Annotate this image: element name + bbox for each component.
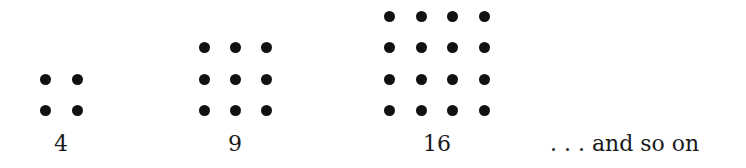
dot-16 <box>479 74 490 85</box>
dot-16 <box>384 105 395 116</box>
dot-16 <box>447 105 458 116</box>
dot-9 <box>199 42 210 53</box>
dot-9 <box>230 105 241 116</box>
dot-16 <box>447 11 458 22</box>
dot-4 <box>72 74 83 85</box>
dot-16 <box>384 74 395 85</box>
dot-16 <box>416 105 427 116</box>
dot-9 <box>199 105 210 116</box>
dot-16 <box>479 11 490 22</box>
dot-16 <box>447 74 458 85</box>
dot-9 <box>261 105 272 116</box>
dot-4 <box>72 105 83 116</box>
group-label-9: 9 <box>205 133 265 155</box>
dot-9 <box>230 42 241 53</box>
dot-16 <box>416 11 427 22</box>
dot-16 <box>447 42 458 53</box>
dot-16 <box>479 42 490 53</box>
dot-16 <box>479 105 490 116</box>
dot-16 <box>384 42 395 53</box>
dot-16 <box>416 74 427 85</box>
square-numbers-figure: 4 9 16 . . . and so on <box>0 0 746 168</box>
dot-9 <box>261 74 272 85</box>
dot-9 <box>230 74 241 85</box>
dot-9 <box>261 42 272 53</box>
dot-4 <box>40 74 51 85</box>
dot-4 <box>40 105 51 116</box>
and-so-on-text: . . . and so on <box>550 133 699 155</box>
group-label-16: 16 <box>407 133 467 155</box>
dot-16 <box>384 11 395 22</box>
dot-16 <box>416 42 427 53</box>
dot-9 <box>199 74 210 85</box>
group-label-4: 4 <box>31 133 91 155</box>
